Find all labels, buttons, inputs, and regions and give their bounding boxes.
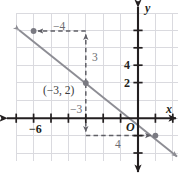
label-run-4: 4 [115, 139, 121, 151]
label-run-neg4: −4 [53, 21, 65, 33]
origin-label: O [126, 121, 135, 133]
label-rise-3: 3 [92, 52, 98, 64]
coordinate-plane-svg [0, 0, 184, 179]
point-neg7-5 [31, 28, 37, 34]
x-axis-label: x [166, 103, 172, 115]
graph-figure: −4 3 −3 4 (−3, 2) −6 2 4 x y O [0, 0, 184, 179]
label-drop-neg3: −3 [70, 104, 82, 116]
label-point-neg3-2: (−3, 2) [43, 85, 74, 97]
point-1-neg1 [153, 133, 159, 139]
y-axis-label: y [145, 2, 150, 14]
y-tick-label-2: 2 [124, 77, 130, 89]
y-tick-label-4: 4 [124, 59, 130, 71]
x-tick-label-neg6: −6 [29, 123, 42, 135]
point-neg3-2 [83, 80, 89, 86]
